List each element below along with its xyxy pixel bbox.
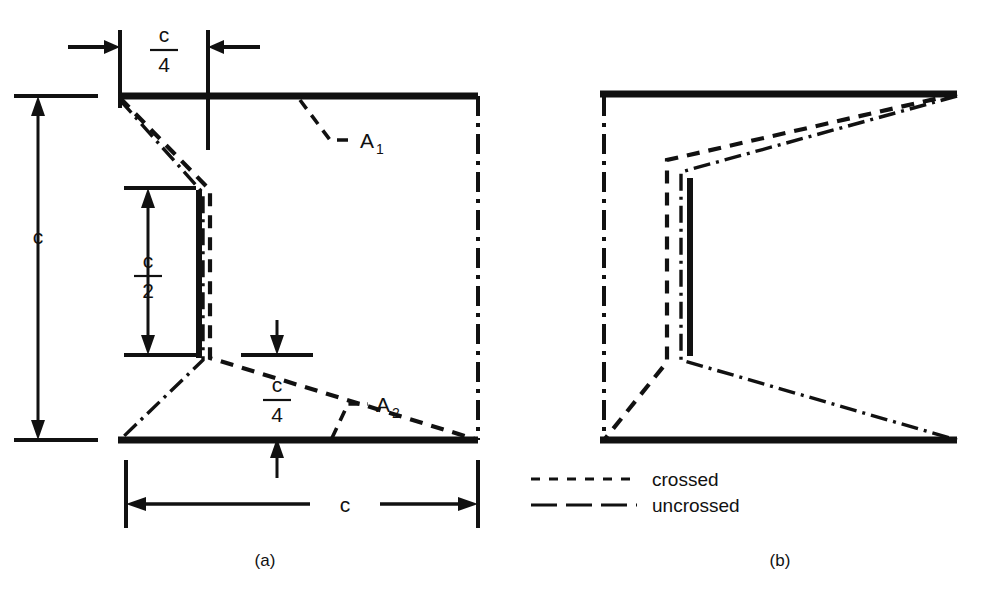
dim-arrowhead-midc4-down [270,335,284,355]
dim-arrowhead-bottom-right [458,497,478,511]
dim-arrowhead-bottom-left [126,497,146,511]
panel-caption-b: (b) [770,551,791,570]
legend-entry-uncrossed: uncrossed [531,495,740,516]
dimension-left-c: c [14,96,98,440]
dimension-mid-c-over-4: c 4 [241,320,313,478]
legend-entry-crossed: crossed [531,469,719,490]
dimension-inner-c-over-2: c 2 [124,188,196,355]
leader-line-a1 [300,100,352,140]
panel-a: c 4 c c 2 [14,23,478,570]
label-a1-subscript: 1 [376,141,384,157]
figure-container: c 4 c c 2 [0,0,989,602]
dim-label-c-over-4-top-numerator: c [159,23,170,46]
profile-uncrossed-panel-b [681,96,957,440]
panel-caption-a: (a) [255,551,276,570]
legend-label-crossed: crossed [652,469,719,490]
dim-arrowhead-left [104,40,120,54]
dim-label-c-over-4-top-denominator: 4 [158,53,170,76]
leader-line-a2 [332,404,368,438]
dim-arrowhead-up [31,96,45,116]
legend: crossed uncrossed [531,469,740,516]
label-a1: A [360,129,374,152]
profile-uncrossed-panel-a [120,100,203,440]
label-a2: A [376,393,390,416]
dim-label-c-over-2-denominator: 2 [142,279,154,302]
dimension-bottom-c: c [126,460,478,528]
dim-label-c-bottom: c [340,493,351,516]
dimension-top-c-over-4: c 4 [68,23,260,150]
dim-label-mid-c-over-4-denominator: 4 [271,403,283,426]
label-a2-subscript: 2 [392,405,400,421]
technical-diagram: c 4 c c 2 [0,0,989,602]
legend-label-uncrossed: uncrossed [652,495,740,516]
dim-arrowhead-c2-down [141,335,155,355]
dim-label-c-over-2-numerator: c [143,249,154,272]
dim-arrowhead-right [208,40,224,54]
dim-label-c-left: c [33,225,44,248]
dim-arrowhead-c2-up [141,188,155,208]
dim-arrowhead-down [31,420,45,440]
